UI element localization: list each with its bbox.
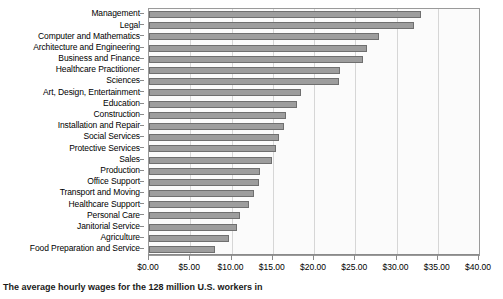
category-tick <box>140 91 144 92</box>
category-row: Sciences <box>0 75 144 86</box>
x-tick-label: $30.00 <box>383 262 409 272</box>
bar-row <box>149 132 479 143</box>
category-tick <box>140 203 144 204</box>
bar <box>149 145 276 152</box>
category-tick <box>140 114 144 115</box>
bar-row <box>149 65 479 76</box>
bar <box>149 56 363 63</box>
category-label: Legal <box>120 21 140 30</box>
category-tick <box>140 136 144 137</box>
bar-row <box>149 199 479 210</box>
category-label: Social Services <box>83 132 140 141</box>
category-label: Business and Finance <box>58 54 140 63</box>
category-row: Sales <box>0 153 144 164</box>
category-tick <box>140 103 144 104</box>
category-label: Production <box>100 166 140 175</box>
bar-row <box>149 54 479 65</box>
category-row: Transport and Moving <box>0 187 144 198</box>
x-tick-label: $10.00 <box>218 262 244 272</box>
category-label: Protective Services <box>69 144 140 153</box>
category-row: Computer and Mathematics <box>0 30 144 41</box>
x-tick-label: $25.00 <box>341 262 367 272</box>
category-tick <box>140 181 144 182</box>
category-tick <box>140 248 144 249</box>
bar-row <box>149 121 479 132</box>
category-tick <box>140 13 144 14</box>
category-label: Personal Care <box>87 211 140 220</box>
x-tick <box>313 255 314 260</box>
category-label: Sciences <box>106 76 140 85</box>
category-label: Food Preparation and Service <box>30 244 140 253</box>
bar-row <box>149 87 479 98</box>
category-row: Legal <box>0 19 144 30</box>
x-tick-label: $5.00 <box>179 262 200 272</box>
category-label: Installation and Repair <box>58 121 140 130</box>
x-tick <box>189 255 190 260</box>
bar <box>149 179 259 186</box>
category-tick <box>140 237 144 238</box>
bar <box>149 33 379 40</box>
x-tick <box>478 255 479 260</box>
category-label: Transport and Moving <box>60 188 140 197</box>
category-label: Construction <box>93 110 140 119</box>
x-axis-ticks <box>148 255 479 260</box>
category-row: Construction <box>0 109 144 120</box>
category-label: Sales <box>119 155 140 164</box>
x-tick-label: $20.00 <box>300 262 326 272</box>
x-tick <box>272 255 273 260</box>
x-tick-label: $35.00 <box>424 262 450 272</box>
x-tick-label: $40.00 <box>465 262 491 272</box>
bar <box>149 78 339 85</box>
bar-row <box>149 31 479 42</box>
category-tick <box>140 226 144 227</box>
category-label: Education <box>103 99 140 108</box>
bar-row <box>149 154 479 165</box>
x-tick <box>231 255 232 260</box>
x-tick-label: $0.00 <box>137 262 158 272</box>
category-row: Personal Care <box>0 209 144 220</box>
category-label: Healthcare Practitioner <box>56 65 140 74</box>
bar <box>149 89 301 96</box>
category-tick <box>140 80 144 81</box>
category-label: Architecture and Engineering <box>33 43 140 52</box>
x-tick <box>354 255 355 260</box>
category-tick <box>140 170 144 171</box>
category-tick <box>140 69 144 70</box>
chart-caption: The average hourly wages for the 128 mil… <box>3 282 483 292</box>
category-row: Production <box>0 165 144 176</box>
plot-area <box>148 8 480 256</box>
bar-row <box>149 222 479 233</box>
category-row: Office Support <box>0 176 144 187</box>
bar <box>149 168 260 175</box>
x-tick-label: $15.00 <box>259 262 285 272</box>
bar <box>149 190 254 197</box>
category-tick <box>140 125 144 126</box>
category-tick <box>140 47 144 48</box>
bar <box>149 212 240 219</box>
bar-row <box>149 188 479 199</box>
category-label: Office Support <box>87 177 140 186</box>
bar-row <box>149 9 479 20</box>
x-tick <box>148 255 149 260</box>
bar-row <box>149 76 479 87</box>
bar-row <box>149 143 479 154</box>
category-row: Food Preparation and Service <box>0 243 144 254</box>
category-row: Social Services <box>0 131 144 142</box>
bar <box>149 67 340 74</box>
category-row: Installation and Repair <box>0 120 144 131</box>
category-row: Janitorial Service <box>0 221 144 232</box>
category-row: Business and Finance <box>0 53 144 64</box>
category-tick <box>140 147 144 148</box>
bar <box>149 235 229 242</box>
bar <box>149 123 284 130</box>
category-tick <box>140 24 144 25</box>
category-label: Agriculture <box>100 233 140 242</box>
bar-row <box>149 210 479 221</box>
bar <box>149 246 215 253</box>
bar <box>149 112 286 119</box>
category-tick <box>140 192 144 193</box>
category-row: Architecture and Engineering <box>0 42 144 53</box>
bar <box>149 22 414 29</box>
category-tick <box>140 214 144 215</box>
bar <box>149 201 249 208</box>
